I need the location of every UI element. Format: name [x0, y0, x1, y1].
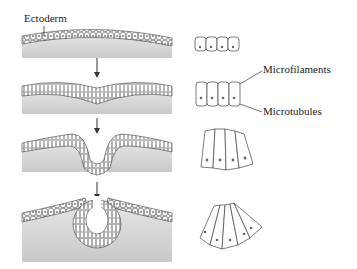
- ectoderm-label: Ectoderm: [24, 12, 67, 24]
- microtubules-label: Microtubules: [263, 105, 322, 117]
- cells-strong-wedge: [200, 203, 262, 249]
- arrow-1-head: [94, 72, 100, 78]
- cells-wedge: [201, 129, 253, 170]
- cells-columnar: Microfilaments Microtubules: [196, 63, 331, 117]
- stage-2-neural-plate: [22, 82, 172, 114]
- microfilaments-label: Microfilaments: [263, 63, 331, 75]
- arrow-2-head: [94, 128, 100, 134]
- stage-4-neural-tube: [22, 196, 172, 262]
- microfilaments-leader-line: [240, 71, 262, 84]
- neural-tube-diagram: Ectoderm: [0, 0, 357, 269]
- stage-3-neural-groove: [22, 134, 172, 175]
- cells-cuboidal: [195, 37, 239, 51]
- stage-1-flat-ectoderm: Ectoderm: [22, 12, 172, 58]
- microtubules-leader-line: [240, 104, 262, 112]
